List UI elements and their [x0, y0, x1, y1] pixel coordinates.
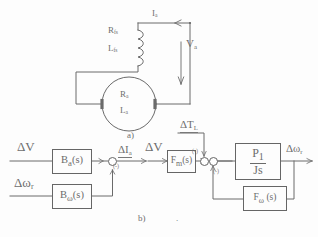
block-bw[interactable]: Bω(s) — [52, 184, 92, 209]
label-input-delta-v-2: ΔV — [145, 140, 163, 153]
sum-sign-1: (-) — [113, 163, 119, 169]
block-bw-label: Bω(s) — [60, 189, 84, 203]
sum-sign-2: (-) — [192, 148, 198, 154]
block-p1-over-js[interactable]: P1 Js — [235, 143, 281, 180]
label-output-delta-omega-r: Δωr — [286, 143, 303, 156]
block-fw-label: Fω (s) — [254, 192, 277, 205]
stray-mark: . — [176, 214, 178, 223]
sum-sign-3: (-) — [213, 168, 219, 174]
gain-numerator: P1 — [250, 147, 266, 164]
label-signal-delta-ia: ΔIa — [118, 144, 132, 158]
block-fm-label: Fm(s) — [171, 155, 192, 168]
gain-fraction: P1 Js — [250, 147, 266, 176]
block-ba-label: Ba(s) — [61, 154, 83, 168]
label-input-delta-omega-r: Δωr — [14, 176, 34, 191]
label-input-delta-tl: ΔTL — [180, 119, 198, 133]
wire-feedback-tap — [287, 161, 294, 199]
summing-junction-3[interactable] — [209, 157, 218, 166]
block-ba[interactable]: Ba(s) — [52, 149, 92, 174]
caption-b: b) — [138, 214, 146, 223]
label-input-delta-v: ΔV — [17, 140, 35, 153]
block-fw[interactable]: Fω (s) — [243, 186, 287, 211]
wire-bw-to-sum — [92, 170, 113, 196]
gain-denominator: Js — [250, 164, 266, 177]
summing-junction-2[interactable] — [200, 157, 209, 166]
figure-canvas: Rfs Lfs Ra La Ia Va a) — [0, 0, 318, 237]
